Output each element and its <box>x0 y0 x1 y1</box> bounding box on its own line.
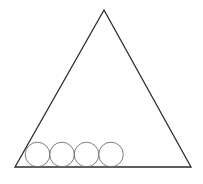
geometry-diagram <box>0 0 203 184</box>
circle-3 <box>74 142 99 167</box>
circles-row <box>25 142 123 167</box>
circle-1 <box>25 142 50 167</box>
triangle <box>15 10 191 167</box>
circle-4 <box>99 142 124 167</box>
circle-2 <box>50 142 75 167</box>
